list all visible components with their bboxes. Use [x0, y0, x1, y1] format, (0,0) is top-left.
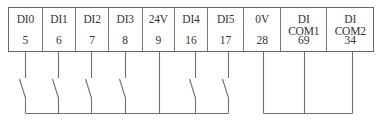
switch-icon [190, 79, 196, 98]
wiring-diagram [0, 0, 376, 120]
switch-icon [86, 79, 92, 98]
switch-icon [223, 79, 229, 98]
switch-icon [120, 79, 126, 98]
switch-icon [20, 79, 26, 98]
switch-icon [53, 79, 59, 98]
